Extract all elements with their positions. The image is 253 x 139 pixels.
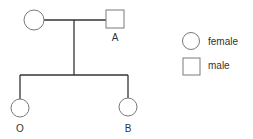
child2-label: B bbox=[125, 123, 132, 134]
legend-male-label: male bbox=[208, 60, 230, 71]
legend: female male bbox=[183, 33, 239, 76]
child1-label: O bbox=[16, 123, 24, 134]
legend-female-label: female bbox=[208, 36, 238, 47]
father-label: A bbox=[112, 32, 119, 43]
child1-female-symbol bbox=[11, 99, 29, 117]
father-male-symbol bbox=[106, 10, 124, 28]
mother-female-symbol bbox=[24, 10, 44, 30]
legend-female-circle-icon bbox=[183, 33, 200, 50]
legend-male-square-icon bbox=[183, 58, 200, 75]
pedigree-diagram: A O B female male bbox=[0, 0, 253, 139]
child2-female-symbol bbox=[119, 98, 137, 116]
